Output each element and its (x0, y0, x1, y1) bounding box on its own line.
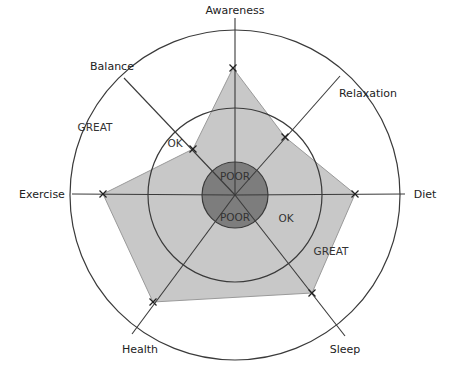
axis-label-health: Health (122, 343, 158, 356)
zone-label-poor: POOR (220, 211, 250, 223)
zone-label-great: GREAT (314, 245, 349, 257)
zone-label-ok: OK (278, 212, 294, 224)
wellness-radar-diagram: AwarenessRelaxationDietSleepHealthExerci… (0, 0, 460, 375)
zone-label-ok: OK (167, 137, 183, 149)
axis-label-exercise: Exercise (19, 188, 65, 201)
axis-label-diet: Diet (414, 188, 437, 201)
axis-label-awareness: Awareness (205, 4, 264, 17)
zone-label-great: GREAT (78, 121, 113, 133)
axis-label-balance: Balance (90, 60, 134, 73)
axis-label-sleep: Sleep (330, 343, 361, 356)
zone-label-poor: POOR (220, 170, 250, 182)
axis-label-relaxation: Relaxation (339, 87, 397, 100)
